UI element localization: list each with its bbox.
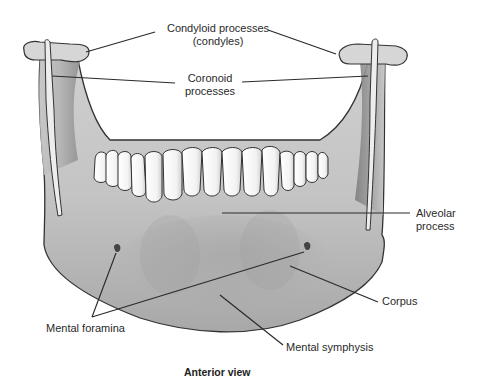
figure-caption: Anterior view bbox=[184, 366, 251, 378]
label-corpus: Corpus bbox=[382, 295, 417, 308]
leader-coronoid-right bbox=[242, 76, 368, 82]
label-alveolar-process: Alveolar process bbox=[416, 207, 456, 233]
label-mental-symphysis: Mental symphysis bbox=[286, 341, 373, 354]
leader-condyloid-left bbox=[86, 32, 155, 52]
label-condyloid-processes: Condyloid processes (condyles) bbox=[158, 22, 278, 48]
leader-condyloid-right bbox=[268, 30, 336, 54]
label-coronoid-processes: Coronoid processes bbox=[178, 72, 242, 98]
label-mental-foramina: Mental foramina bbox=[46, 322, 125, 335]
